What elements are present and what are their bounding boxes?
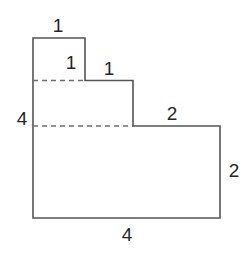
geometry-figure: 1 1 1 4 2 2 4 — [0, 0, 252, 254]
right-height-label: 2 — [229, 161, 240, 180]
upper-right-width-label: 2 — [167, 104, 178, 123]
second-step-width-label: 1 — [104, 59, 115, 78]
shape-outline-svg — [0, 0, 252, 254]
left-height-label: 4 — [17, 109, 28, 128]
bottom-width-label: 4 — [122, 225, 133, 244]
staircase-outline-path — [33, 38, 220, 218]
top-width-label: 1 — [53, 16, 64, 35]
first-step-height-label: 1 — [66, 53, 77, 72]
